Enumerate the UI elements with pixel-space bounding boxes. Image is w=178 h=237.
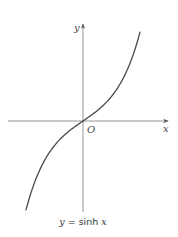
sinh-chart: y x O y = sinh x (0, 0, 178, 237)
chart-caption: y = sinh x (58, 216, 107, 227)
caption-eq: = sinh (65, 216, 102, 227)
y-axis-label: y (73, 22, 80, 33)
origin-label: O (87, 124, 95, 135)
x-axis-label: x (163, 123, 169, 134)
caption-rhs: x (101, 216, 107, 227)
